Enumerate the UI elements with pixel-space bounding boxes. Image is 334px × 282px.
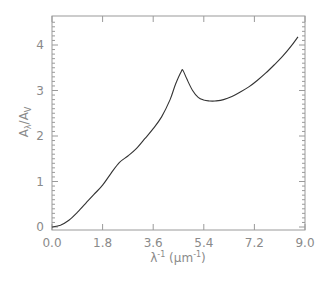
y-tick-label: 3 — [36, 84, 44, 98]
x-tick-label: 9.0 — [295, 236, 314, 250]
y-tick-label: 0 — [36, 220, 44, 234]
x-tick-label: 3.6 — [144, 236, 163, 250]
axis-ticks — [52, 16, 305, 230]
y-axis-title: Aλ/AV — [17, 106, 33, 137]
y-tick-labels: 01234 — [36, 38, 44, 234]
y-tick-label: 4 — [36, 38, 44, 52]
x-tick-label: 1.8 — [93, 236, 112, 250]
x-axis-title: λ-1 (µm-1) — [150, 250, 206, 265]
y-tick-label: 2 — [36, 129, 44, 143]
plot-frame — [52, 16, 305, 230]
y-tick-label: 1 — [36, 175, 44, 189]
x-tick-labels: 0.01.83.65.47.29.0 — [42, 236, 314, 250]
x-tick-label: 0.0 — [42, 236, 61, 250]
x-tick-label: 5.4 — [194, 236, 213, 250]
x-tick-label: 7.2 — [245, 236, 264, 250]
extinction-chart: 0.01.83.65.47.29.0 01234 λ-1 (µm-1) Aλ/A… — [0, 0, 334, 282]
axes-box — [52, 16, 305, 230]
extinction-curve-line — [52, 37, 298, 227]
